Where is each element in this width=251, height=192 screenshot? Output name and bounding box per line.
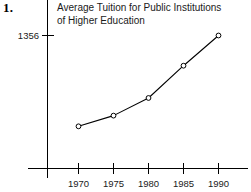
line-chart-plot: 1356 1970 1975 1980 1985 1990 (0, 0, 251, 192)
y-tick-label-1356: 1356 (18, 30, 39, 41)
x-tick-label-1990: 1990 (208, 178, 229, 189)
series-data-point-1980 (146, 96, 151, 101)
series-data-point-1990 (216, 33, 221, 38)
series-data-point-1970 (76, 124, 81, 129)
x-tick-label-1975: 1975 (103, 178, 124, 189)
series-line-average-tuition (79, 36, 219, 127)
series-data-point-1985 (181, 63, 186, 68)
series-markers (76, 33, 221, 129)
x-tick-label-1970: 1970 (68, 178, 89, 189)
series-data-point-1975 (111, 113, 116, 118)
chart-figure: 1. Average Tuition for Public Institutio… (0, 0, 251, 192)
x-tick-label-1980: 1980 (138, 178, 159, 189)
x-tick-label-1985: 1985 (173, 178, 194, 189)
